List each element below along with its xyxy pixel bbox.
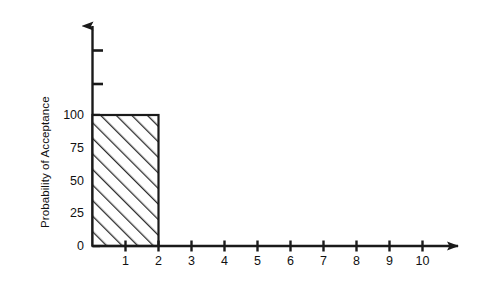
x-tick-label-3: 3 [180,254,204,268]
x-tick-label-4: 4 [213,254,237,268]
y-tick-label-25: 25 [50,206,84,220]
x-tick-label-9: 9 [378,254,402,268]
y-tick-label-0: 0 [50,239,84,253]
x-tick-label-1: 1 [114,254,138,268]
x-tick-label-5: 5 [246,254,270,268]
y-tick-label-50: 50 [50,174,84,188]
x-tick-label-8: 8 [345,254,369,268]
bar-rect [93,115,159,246]
x-tick-label-2: 2 [147,254,171,268]
y-tick-label-100: 100 [50,108,84,122]
oc-curve-chart: Probability of Acceptance 100 75 50 25 0… [0,0,482,291]
x-tick-label-7: 7 [312,254,336,268]
x-tick-label-10: 10 [411,254,435,268]
bar-0-2 [93,115,159,246]
y-axis-title: Probability of Acceptance [36,28,54,228]
y-tick-label-75: 75 [50,141,84,155]
x-tick-label-6: 6 [279,254,303,268]
